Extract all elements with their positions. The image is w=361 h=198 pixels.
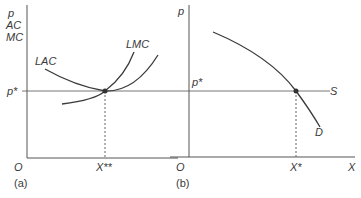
origin-label-b: O xyxy=(176,161,185,173)
panel-label-a: (a) xyxy=(14,177,27,189)
price-label-a: p* xyxy=(6,85,18,97)
lmc-curve xyxy=(62,52,134,104)
y-axis-label-ac: AC xyxy=(5,19,21,31)
y-axis-label-mc: MC xyxy=(6,31,23,43)
economics-diagram: p AC MC p* LAC LMC O X** (a) p p* D S O … xyxy=(0,0,361,198)
y-axis-label-p-b: p xyxy=(177,5,184,17)
panel-label-b: (b) xyxy=(176,177,189,189)
lac-curve xyxy=(45,55,158,91)
supply-label: S xyxy=(330,85,338,97)
lac-label: LAC xyxy=(35,55,56,67)
panel-a: p AC MC p* LAC LMC O X** (a) xyxy=(5,5,178,189)
panel-b: p p* D S O X* X (b) xyxy=(170,5,356,189)
demand-label: D xyxy=(315,126,323,138)
origin-label-a: O xyxy=(14,161,23,173)
equilibrium-point-a xyxy=(103,89,108,94)
demand-curve xyxy=(213,32,320,127)
y-axis-label-p-a: p xyxy=(7,7,14,19)
quantity-label-b: X* xyxy=(289,161,302,173)
quantity-label-a: X** xyxy=(95,161,113,173)
equilibrium-point-b xyxy=(294,89,299,94)
lmc-label: LMC xyxy=(126,38,149,50)
price-label-b: p* xyxy=(191,76,203,88)
x-axis-label-b: X xyxy=(347,161,356,173)
